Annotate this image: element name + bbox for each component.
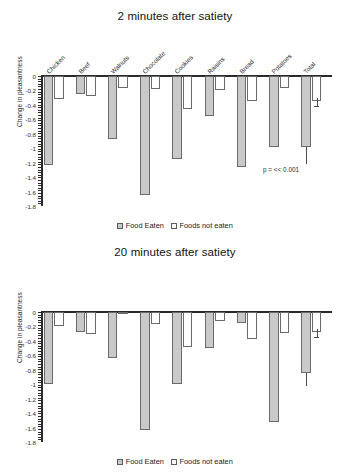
category-label-cookies: Cookies xyxy=(173,54,194,75)
chart-panel-2min: 2 minutes after satiety Change in pleasa… xyxy=(0,0,350,236)
legend-item-foods-not-eaten: Foods not eaten xyxy=(171,457,233,466)
bar-beef-food-eaten xyxy=(76,312,86,332)
bar-chocolate-food-eaten xyxy=(140,312,150,430)
y-axis-tick-7: -1.4 xyxy=(25,410,36,417)
y-axis-tick-0: 0 xyxy=(33,309,36,316)
bar-total-food-eaten xyxy=(301,312,311,373)
legend-swatch-food-eaten xyxy=(117,223,123,229)
category-label-total: Total xyxy=(302,61,316,75)
plot-area-20min xyxy=(41,312,331,442)
y-axis-tick-5: -1 xyxy=(30,145,36,152)
bar-bread-foods-not-eaten xyxy=(247,312,257,339)
error-bar-cap-total xyxy=(314,106,319,107)
legend-label-foods-not-eaten: Foods not eaten xyxy=(179,221,232,230)
bar-raisins-food-eaten xyxy=(205,76,215,116)
y-axis-tick-5: -1 xyxy=(30,381,36,388)
bar-chicken-foods-not-eaten xyxy=(54,76,64,99)
y-axis-tick-2: -0.4 xyxy=(25,337,36,344)
bar-potatoes-food-eaten xyxy=(269,76,279,147)
y-axis-tick-9: -1.8 xyxy=(25,439,36,446)
bar-chicken-foods-not-eaten xyxy=(54,312,64,326)
error-bar-total-1 xyxy=(306,373,307,386)
y-axis-tick-3: -0.6 xyxy=(25,116,36,123)
legend-label-foods-not-eaten: Foods not eaten xyxy=(179,457,232,466)
bar-potatoes-food-eaten xyxy=(269,312,279,422)
bar-cookies-foods-not-eaten xyxy=(183,312,193,347)
error-bar-total-0 xyxy=(317,98,318,107)
error-bar-total-0 xyxy=(317,329,318,336)
bar-raisins-foods-not-eaten xyxy=(215,312,225,321)
y-axis-tick-6: -1.2 xyxy=(25,395,36,402)
y-axis-tick-4: -0.8 xyxy=(25,130,36,137)
bar-potatoes-foods-not-eaten xyxy=(280,312,290,333)
bar-cookies-foods-not-eaten xyxy=(183,76,193,109)
legend-label-food-eaten: Food Eaten xyxy=(126,457,164,466)
bar-chicken-food-eaten xyxy=(44,312,54,384)
chart-panel-20min: 20 minutes after satiety Change in pleas… xyxy=(0,236,350,472)
bar-chicken-food-eaten xyxy=(44,76,54,165)
y-axis-tick-8: -1.6 xyxy=(25,188,36,195)
bar-beef-foods-not-eaten xyxy=(86,76,96,96)
y-axis-tick-6: -1.2 xyxy=(25,159,36,166)
chart-legend-2min: Food Eaten Foods not eaten xyxy=(0,221,350,230)
error-bar-total-1 xyxy=(306,147,307,164)
bar-total-food-eaten xyxy=(301,76,311,147)
category-label-chicken: Chicken xyxy=(45,54,66,75)
bar-chocolate-foods-not-eaten xyxy=(151,76,161,89)
legend-label-food-eaten: Food Eaten xyxy=(126,221,164,230)
legend-swatch-foods-not-eaten xyxy=(171,223,177,229)
bar-beef-food-eaten xyxy=(76,76,86,94)
y-axis-tick-8: -1.6 xyxy=(25,424,36,431)
y-axis-tick-0: 0 xyxy=(33,73,36,80)
y-axis-tick-4: -0.8 xyxy=(25,366,36,373)
p-value-annotation: p = << 0.001 xyxy=(263,166,299,173)
category-label-raisins: Raisins xyxy=(206,55,226,75)
bar-chocolate-foods-not-eaten xyxy=(151,312,161,324)
legend-swatch-foods-not-eaten xyxy=(171,459,177,465)
bar-potatoes-foods-not-eaten xyxy=(280,76,290,88)
chart-title: 20 minutes after satiety xyxy=(0,246,350,258)
legend-item-foods-not-eaten: Foods not eaten xyxy=(171,221,233,230)
y-axis-tick-1: -0.2 xyxy=(25,323,36,330)
chart-title: 2 minutes after satiety xyxy=(0,10,350,22)
legend-swatch-food-eaten xyxy=(117,459,123,465)
y-axis-tick-3: -0.6 xyxy=(25,352,36,359)
legend-item-food-eaten: Food Eaten xyxy=(117,221,164,230)
bar-walnuts-foods-not-eaten xyxy=(118,312,128,314)
bar-raisins-food-eaten xyxy=(205,312,215,348)
y-axis-tick-2: -0.4 xyxy=(25,101,36,108)
y-axis-tick-7: -1.4 xyxy=(25,174,36,181)
bar-bread-food-eaten xyxy=(237,312,247,323)
legend-item-food-eaten: Food Eaten xyxy=(117,457,164,466)
category-label-beef: Beef xyxy=(77,61,91,75)
y-axis-tick-1: -0.2 xyxy=(25,87,36,94)
y-axis-tick-labels: 0-0.2-0.4-0.6-0.8-1-1.2-1.4-1.6-1.8 xyxy=(0,312,36,442)
category-label-bread: Bread xyxy=(238,58,255,75)
figure-container: 2 minutes after satiety Change in pleasa… xyxy=(0,0,350,472)
category-label-potatoes: Potatoes xyxy=(270,52,293,75)
bar-cookies-food-eaten xyxy=(172,312,182,384)
y-axis-tick-labels: 0-0.2-0.4-0.6-0.8-1-1.2-1.4-1.6-1.8 xyxy=(0,76,36,206)
bar-walnuts-foods-not-eaten xyxy=(118,76,128,88)
bar-beef-foods-not-eaten xyxy=(86,312,96,334)
plot-area-2min xyxy=(41,76,331,206)
bar-walnuts-food-eaten xyxy=(108,312,118,358)
category-label-chocolate: Chocolate xyxy=(141,50,166,75)
bar-bread-foods-not-eaten xyxy=(247,76,257,101)
bar-chocolate-food-eaten xyxy=(140,76,150,195)
y-axis-tick-9: -1.8 xyxy=(25,203,36,210)
bar-walnuts-food-eaten xyxy=(108,76,118,139)
chart-legend-20min: Food Eaten Foods not eaten xyxy=(0,457,350,466)
category-label-walnuts: Walnuts xyxy=(109,54,130,75)
bar-raisins-foods-not-eaten xyxy=(215,76,225,90)
error-bar-cap-total xyxy=(314,337,319,338)
bar-cookies-food-eaten xyxy=(172,76,182,159)
bar-bread-food-eaten xyxy=(237,76,247,167)
